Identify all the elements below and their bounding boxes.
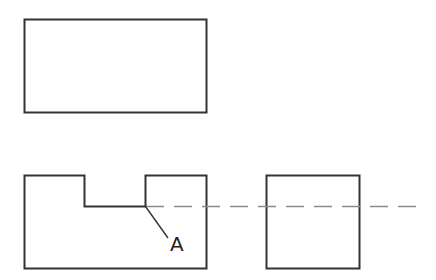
point-label-a: A: [170, 232, 184, 256]
top-view-rectangle: [25, 20, 207, 113]
leader-line-a: [146, 207, 169, 239]
orthographic-projection-diagram: A: [0, 0, 436, 280]
side-view-square: [267, 176, 360, 269]
